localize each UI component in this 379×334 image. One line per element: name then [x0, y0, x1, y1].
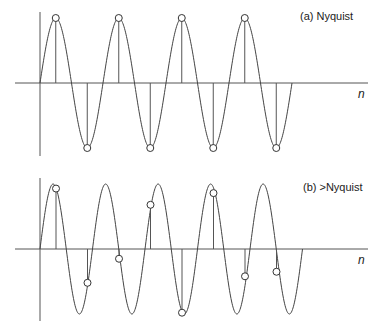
sample-point	[210, 190, 217, 197]
panel-nyquist: (a) Nyquist n	[15, 10, 368, 156]
sample-point	[84, 279, 91, 286]
sample-point	[242, 273, 249, 280]
sampling-diagram: (a) Nyquist n (b) >Nyquist n	[0, 0, 379, 334]
sample-point	[273, 145, 280, 152]
sample-point	[147, 201, 154, 208]
sample-point	[116, 255, 123, 262]
panel-above-nyquist: (b) >Nyquist n	[15, 178, 368, 321]
sample-point	[53, 185, 60, 192]
axis-label-n: n	[358, 253, 365, 267]
sample-point	[52, 15, 59, 22]
sample-point	[147, 145, 154, 152]
sample-point	[273, 268, 280, 275]
panel-label: (a) Nyquist	[300, 10, 353, 22]
sample-point	[178, 15, 185, 22]
sample-point	[179, 309, 186, 316]
sample-point	[84, 145, 91, 152]
axis-label-n: n	[358, 87, 365, 101]
sample-point	[241, 15, 248, 22]
sample-point	[210, 145, 217, 152]
sample-point	[115, 15, 122, 22]
panel-label: (b) >Nyquist	[303, 181, 363, 193]
